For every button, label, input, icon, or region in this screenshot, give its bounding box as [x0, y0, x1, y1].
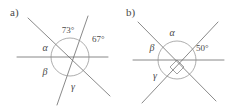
panel-b: b) α β γ 50° [126, 6, 224, 103]
panel-b-angle-50-label: 50° [196, 43, 209, 53]
panel-a-angle-beta-label: β [42, 66, 48, 77]
panel-b-diagonal-down-right-line [138, 22, 216, 101]
geometry-figure-sheet: a) 73° 67° α β γ b) α β γ 50° [0, 0, 237, 112]
panel-a-angle-alpha-label: α [42, 42, 48, 53]
panel-b-label: b) [126, 6, 136, 19]
panel-a: a) 73° 67° α β γ [10, 6, 110, 105]
panel-a-angle-gamma-label: γ [71, 81, 76, 92]
panel-b-angle-beta-label: β [149, 42, 155, 53]
panel-a-angle-73-label: 73° [62, 25, 75, 35]
panel-a-label: a) [10, 6, 19, 19]
panel-a-angle-67-label: 67° [92, 34, 105, 44]
panel-b-diagonal-down-left-line [142, 22, 218, 103]
panel-b-angle-gamma-label: γ [153, 70, 158, 81]
panel-b-angle-alpha-label: α [169, 27, 175, 38]
